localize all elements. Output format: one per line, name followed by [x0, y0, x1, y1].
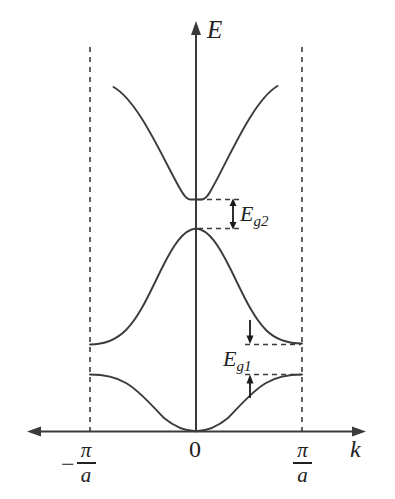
right-zone-edge-numerator: π [294, 440, 311, 462]
gap-lower-arrowhead-down [247, 336, 254, 345]
band-structure-figure: E k 0 − π a π a Eg2 Eg1 [0, 0, 395, 499]
gap-upper-label: Eg2 [240, 203, 268, 229]
gap-lower-symbol: E [223, 346, 236, 371]
k-axis-label: k [350, 437, 361, 461]
band-diagram-canvas [0, 0, 395, 499]
e-axis-arrowhead-top [191, 21, 201, 35]
left-zone-edge-fraction: π a [77, 440, 96, 486]
left-zone-edge-denominator: a [78, 464, 95, 486]
right-zone-edge-fraction: π a [293, 440, 312, 486]
right-zone-edge-denominator: a [294, 464, 311, 486]
e-axis-label: E [207, 17, 222, 42]
right-zone-edge-label: π a [293, 440, 312, 486]
origin-label: 0 [189, 437, 201, 461]
k-axis-arrowhead-left [27, 427, 41, 437]
gap-lower-label: Eg1 [223, 348, 251, 374]
left-zone-edge-numerator: π [78, 440, 95, 462]
left-zone-edge-label: − π a [61, 440, 96, 486]
gap-upper-subscript: g2 [253, 213, 268, 229]
left-zone-edge-minus-sign: − [61, 452, 75, 476]
k-axis-arrowhead-right [352, 427, 366, 437]
gap-lower-subscript: g1 [236, 358, 251, 374]
gap-lower-arrowhead-up [247, 375, 254, 384]
gap-upper-symbol: E [240, 201, 253, 226]
